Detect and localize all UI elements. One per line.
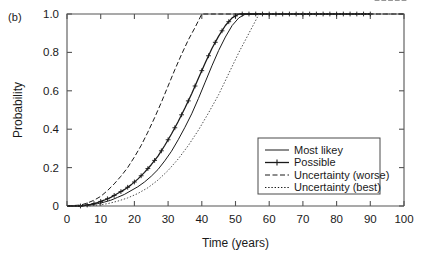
y-axis-title: Probability bbox=[11, 82, 25, 138]
x-axis-tick-label: 80 bbox=[330, 213, 343, 225]
x-axis-tick-label: 60 bbox=[263, 213, 276, 225]
y-axis-tick-label: 1.0 bbox=[43, 8, 59, 20]
x-axis-tick-label: 30 bbox=[162, 213, 175, 225]
x-axis-tick-label: 20 bbox=[128, 213, 141, 225]
x-axis-tick-label: 0 bbox=[64, 213, 70, 225]
y-axis-tick-label: 0.2 bbox=[43, 162, 59, 174]
legend-label: Possible bbox=[294, 156, 336, 168]
y-axis-tick-label: 0.8 bbox=[43, 46, 59, 58]
x-axis-title: Time (years) bbox=[202, 236, 269, 250]
figure-panel: (b) 010203040506070809010000.20.40.60.81… bbox=[0, 0, 426, 261]
y-axis-tick-label: 0 bbox=[53, 200, 59, 212]
legend-label: Uncertainty (worse) bbox=[294, 169, 389, 181]
x-axis-tick-label: 70 bbox=[297, 213, 310, 225]
x-axis-tick-label: 90 bbox=[364, 213, 377, 225]
legend-label: Uncertainty (best) bbox=[294, 181, 381, 193]
x-axis-tick-label: 40 bbox=[195, 213, 208, 225]
x-axis-tick-label: 100 bbox=[394, 213, 413, 225]
legend-label: Most likey bbox=[294, 144, 343, 156]
y-axis-tick-label: 0.6 bbox=[43, 85, 59, 97]
y-axis-tick-label: 0.4 bbox=[43, 123, 60, 135]
chart-legend: Most likeyPossibleUncertainty (worse)Unc… bbox=[258, 138, 389, 194]
x-axis-tick-label: 50 bbox=[229, 213, 242, 225]
chart-plot: 010203040506070809010000.20.40.60.81.0Ti… bbox=[0, 0, 426, 261]
x-axis-tick-label: 10 bbox=[94, 213, 107, 225]
